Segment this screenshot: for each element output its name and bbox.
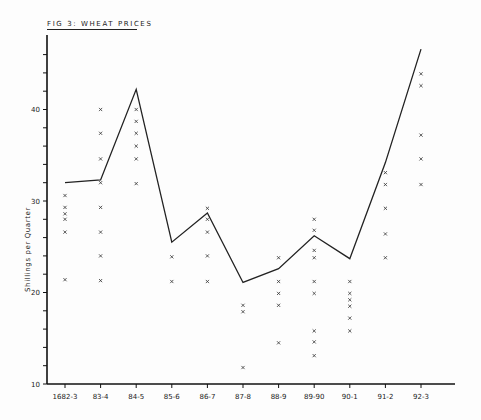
x-tick-label: 83-4 <box>93 393 109 401</box>
price-marker <box>313 218 316 221</box>
price-marker <box>384 207 387 210</box>
price-marker <box>99 254 102 257</box>
price-marker <box>348 329 351 332</box>
price-marker <box>384 183 387 186</box>
price-marker <box>99 279 102 282</box>
price-marker <box>419 157 422 160</box>
price-marker <box>419 134 422 137</box>
price-marker <box>206 231 209 234</box>
price-marker <box>63 231 66 234</box>
price-marker <box>241 310 244 313</box>
price-marker <box>348 317 351 320</box>
price-marker <box>313 280 316 283</box>
price-marker <box>241 366 244 369</box>
price-marker <box>348 298 351 301</box>
x-tick-label: 91-2 <box>377 393 393 401</box>
wheat-price-chart: 10203040Shillings per Quarter1682-383-48… <box>0 0 481 420</box>
price-marker <box>170 255 173 258</box>
price-marker <box>384 171 387 174</box>
price-marker <box>313 229 316 232</box>
x-tick-label: 92-3 <box>413 393 429 401</box>
price-marker <box>313 249 316 252</box>
x-tick-label: 86-7 <box>199 393 215 401</box>
x-tick-label: 87-8 <box>235 393 251 401</box>
price-marker <box>419 72 422 75</box>
price-marker <box>63 194 66 197</box>
price-marker <box>135 145 138 148</box>
price-marker <box>206 218 209 221</box>
price-marker <box>241 304 244 307</box>
price-marker <box>206 280 209 283</box>
price-marker <box>63 278 66 281</box>
price-marker <box>277 292 280 295</box>
price-marker <box>99 157 102 160</box>
price-marker <box>313 329 316 332</box>
price-marker <box>277 280 280 283</box>
x-tick-label: 84-5 <box>128 393 144 401</box>
price-marker <box>384 256 387 259</box>
y-tick-label: 10 <box>31 381 40 389</box>
price-marker <box>99 181 102 184</box>
y-axis-title: Shillings per Quarter <box>24 207 32 292</box>
price-marker <box>419 183 422 186</box>
price-marker <box>419 84 422 87</box>
price-marker <box>63 212 66 215</box>
price-marker <box>277 304 280 307</box>
price-marker <box>206 207 209 210</box>
x-tick-label: 89-90 <box>304 393 324 401</box>
price-marker <box>135 157 138 160</box>
price-marker <box>170 280 173 283</box>
price-marker <box>277 341 280 344</box>
price-marker <box>135 182 138 185</box>
price-marker <box>348 280 351 283</box>
price-marker <box>313 256 316 259</box>
price-marker <box>135 108 138 111</box>
price-marker <box>277 256 280 259</box>
price-marker <box>99 231 102 234</box>
price-marker <box>99 108 102 111</box>
price-marker <box>135 132 138 135</box>
x-tick-label: 85-6 <box>164 393 180 401</box>
price-marker <box>99 206 102 209</box>
price-marker <box>206 254 209 257</box>
price-marker <box>313 354 316 357</box>
price-marker <box>313 340 316 343</box>
x-tick-label: 90-1 <box>342 393 358 401</box>
y-tick-label: 20 <box>31 289 40 297</box>
price-marker <box>313 292 316 295</box>
price-marker <box>384 232 387 235</box>
y-tick-label: 30 <box>31 198 40 206</box>
price-marker <box>63 206 66 209</box>
price-marker <box>348 292 351 295</box>
price-marker <box>348 305 351 308</box>
price-marker <box>63 218 66 221</box>
x-tick-label: 88-9 <box>271 393 287 401</box>
x-tick-label: 1682-3 <box>53 393 78 401</box>
y-tick-label: 40 <box>31 106 40 114</box>
average-price-line <box>65 49 421 282</box>
price-marker <box>99 132 102 135</box>
price-marker <box>135 120 138 123</box>
